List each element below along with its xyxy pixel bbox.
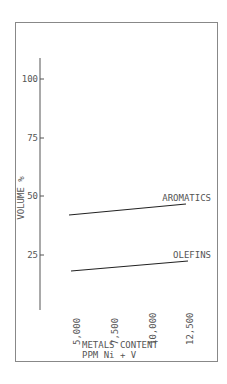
y-tick-label: 75 xyxy=(27,133,38,143)
series-line-aromatics xyxy=(69,204,186,215)
x-axis-sublabel: PPM Ni + V xyxy=(82,350,137,360)
y-ticks: 100 75 50 25 xyxy=(22,74,44,260)
y-tick-label: 25 xyxy=(27,250,38,260)
x-tick-label: 12,500 xyxy=(185,312,195,345)
line-chart: 100 75 50 25 VOLUME % AROMATICS OLEFINS … xyxy=(0,0,227,384)
series-line-olefins xyxy=(71,261,188,271)
x-axis-label: METALS CONTENT xyxy=(82,340,158,350)
y-tick-label: 50 xyxy=(27,191,38,201)
x-tick-label: 5,000 xyxy=(72,318,82,345)
series-label-olefins: OLEFINS xyxy=(173,250,211,260)
y-axis-label: VOLUME % xyxy=(16,176,26,220)
y-tick-label: 100 xyxy=(22,74,38,84)
series-label-aromatics: AROMATICS xyxy=(162,193,211,203)
